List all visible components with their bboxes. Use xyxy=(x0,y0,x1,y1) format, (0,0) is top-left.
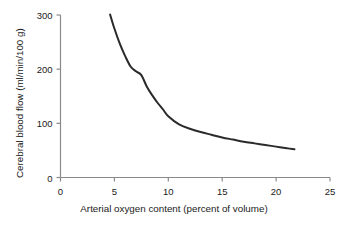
y-axis-tick-label: 200 xyxy=(37,64,53,75)
chart-figure: 0100200300 0510152025 Arterial oxygen co… xyxy=(0,0,348,226)
data-series-line xyxy=(110,14,294,149)
x-axis-tick-label: 5 xyxy=(112,186,117,197)
y-axis-tick-label: 300 xyxy=(37,10,53,21)
y-axis-tick-label: 0 xyxy=(47,172,52,183)
x-axis-tick-label: 20 xyxy=(271,186,282,197)
y-axis-tick-label: 100 xyxy=(37,118,53,129)
y-axis-title: Cerebral blood flow (ml/min/100 g) xyxy=(14,28,25,178)
x-axis-tick-label: 15 xyxy=(217,186,228,197)
x-axis-title: Arterial oxygen content (percent of volu… xyxy=(0,203,348,214)
x-axis-tick-label: 10 xyxy=(163,186,174,197)
x-axis-tick-label: 25 xyxy=(325,186,336,197)
chart-plot-area xyxy=(0,0,348,226)
x-axis-tick-label: 0 xyxy=(58,186,63,197)
x-axis-ticks xyxy=(61,178,331,182)
